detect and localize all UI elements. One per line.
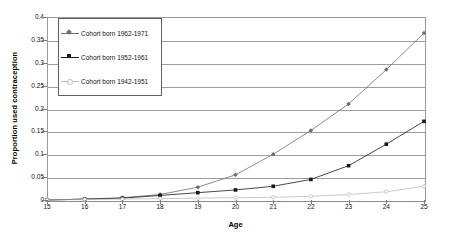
legend-label: Cohort born 1942-1951: [81, 78, 148, 85]
x-axis-tick-mark: [160, 200, 161, 204]
x-axis-tick-mark: [198, 200, 199, 204]
y-axis-tick-label: 0.05: [20, 173, 44, 180]
data-point: [233, 173, 238, 178]
data-point: [422, 185, 425, 188]
y-axis-tick-mark: [42, 63, 47, 64]
x-axis-tick-label: 25: [414, 203, 434, 210]
x-axis-tick-label: 22: [301, 203, 321, 210]
y-axis-tick-label: 0.4: [20, 13, 44, 20]
y-axis-tick-label: 0.1: [20, 150, 44, 157]
y-axis-tick-label: 0.2: [20, 105, 44, 112]
x-axis-tick-mark: [236, 200, 237, 204]
legend-marker: [66, 29, 72, 35]
y-axis-tick-label: 0.25: [20, 82, 44, 89]
x-axis-tick-label: 23: [339, 203, 359, 210]
x-axis-tick-mark: [273, 200, 274, 204]
legend-item-1: Cohort born 1962-1971: [59, 25, 163, 41]
x-axis-tick-mark: [424, 200, 425, 204]
series-2: [45, 120, 426, 202]
legend-label: Cohort born 1952-1961: [81, 54, 148, 61]
x-axis-tick-mark: [85, 200, 86, 204]
data-point: [196, 185, 201, 190]
x-axis-tick-mark: [386, 200, 387, 204]
data-point: [196, 191, 200, 195]
data-point: [309, 178, 313, 182]
y-axis-tick-mark: [42, 154, 47, 155]
data-point: [272, 196, 275, 199]
data-point: [309, 195, 312, 198]
legend-label: Cohort born 1962-1971: [81, 30, 148, 37]
y-axis-tick-mark: [42, 109, 47, 110]
x-axis-tick-label: 24: [376, 203, 396, 210]
data-point: [385, 190, 388, 193]
data-point: [234, 196, 237, 199]
y-axis-tick-label: 0.35: [20, 36, 44, 43]
legend-marker-icon: [59, 52, 81, 62]
legend-item-2: Cohort born 1952-1961: [59, 49, 163, 65]
legend-marker-icon: [59, 28, 81, 38]
legend-item-3: Cohort born 1942-1951: [59, 73, 163, 89]
y-axis-tick-mark: [42, 17, 47, 18]
legend-marker: [67, 79, 73, 85]
chart-legend: Cohort born 1962-1971Cohort born 1952-19…: [58, 18, 162, 96]
legend-marker-icon: [59, 76, 81, 86]
x-axis-tick-label: 20: [226, 203, 246, 210]
x-axis-tick-label: 18: [150, 203, 170, 210]
x-axis-tick-label: 15: [37, 203, 57, 210]
x-axis-tick-label: 16: [75, 203, 95, 210]
x-axis-tick-label: 19: [188, 203, 208, 210]
data-point: [271, 152, 276, 157]
x-axis-tick-label: 17: [112, 203, 132, 210]
data-point: [347, 164, 351, 168]
y-axis-tick-labels: 00.050.10.150.20.250.30.350.4: [16, 17, 44, 200]
y-axis-tick-label: 0.3: [20, 59, 44, 66]
data-point: [347, 193, 350, 196]
data-point: [385, 142, 389, 146]
x-axis-tick-label: 21: [263, 203, 283, 210]
y-axis-tick-label: 0: [20, 196, 44, 203]
contraception-line-chart: Proportion used contraception 00.050.10.…: [0, 0, 450, 238]
y-axis-tick-mark: [42, 40, 47, 41]
legend-marker: [67, 54, 71, 58]
data-point: [234, 188, 238, 192]
x-axis-tick-mark: [47, 200, 48, 204]
y-axis-tick-label: 0.15: [20, 127, 44, 134]
x-axis-tick-mark: [122, 200, 123, 204]
x-axis-tick-mark: [311, 200, 312, 204]
y-axis-tick-mark: [42, 177, 47, 178]
data-point: [422, 120, 426, 124]
y-axis-tick-mark: [42, 131, 47, 132]
y-axis-tick-mark: [42, 86, 47, 87]
data-point: [271, 184, 275, 188]
x-axis-title: Age: [47, 220, 424, 229]
x-axis-tick-mark: [349, 200, 350, 204]
x-axis-tick-labels: 1516171819202122232425: [47, 203, 424, 215]
